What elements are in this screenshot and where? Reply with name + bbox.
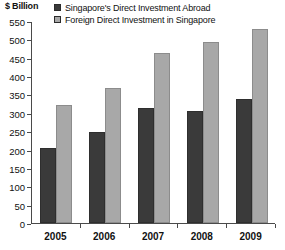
bar [203,42,219,223]
bar [252,29,268,223]
x-tick-label: 2009 [239,231,261,242]
y-tick [27,169,31,170]
y-tick [27,77,31,78]
y-tick-label: 100 [0,182,25,193]
bar [89,132,105,223]
y-tick [27,114,31,115]
dark-square-icon [54,4,61,11]
y-tick-label: 200 [0,145,25,156]
x-axis-line [31,223,275,224]
bar [56,105,72,223]
plot-area: 050100150200250300350400450500550 [31,22,275,224]
y-tick [27,206,31,207]
legend-label-0: Singapore's Direct Investment Abroad [65,3,210,13]
y-tick [27,132,31,133]
x-tick-label: 2007 [142,231,164,242]
bar [105,88,121,223]
bar-groups [32,22,275,223]
y-tick-label: 250 [0,127,25,138]
y-tick [27,95,31,96]
y-tick-label: 0 [0,219,25,230]
x-axis-labels: 20052006200720082009 [31,225,275,245]
legend-item-0: Singapore's Direct Investment Abroad [54,2,215,13]
bar [236,99,252,223]
y-tick-label: 300 [0,108,25,119]
x-tick-label: 2008 [191,231,213,242]
y-tick-label: 150 [0,163,25,174]
y-axis-unit-label: $ Billion [5,1,38,11]
y-tick-label: 50 [0,200,25,211]
bar-group [40,22,72,223]
bar [154,53,170,223]
bar [138,108,154,223]
bar-group [187,22,219,223]
y-tick-label: 400 [0,72,25,83]
x-tick-label: 2006 [93,231,115,242]
y-tick-label: 350 [0,90,25,101]
y-tick-label: 550 [0,17,25,28]
bar-group [89,22,121,223]
bar [187,111,203,223]
bar [40,148,56,223]
x-tick-label: 2005 [44,231,66,242]
y-tick [27,151,31,152]
bar-group [236,22,268,223]
y-tick [27,187,31,188]
bar-chart: $ Billion Singapore's Direct Investment … [0,0,285,250]
y-tick-label: 500 [0,35,25,46]
x-tick [275,224,276,228]
y-tick [27,59,31,60]
bar-group [138,22,170,223]
y-tick [27,22,31,23]
y-tick-label: 450 [0,53,25,64]
y-tick [27,40,31,41]
